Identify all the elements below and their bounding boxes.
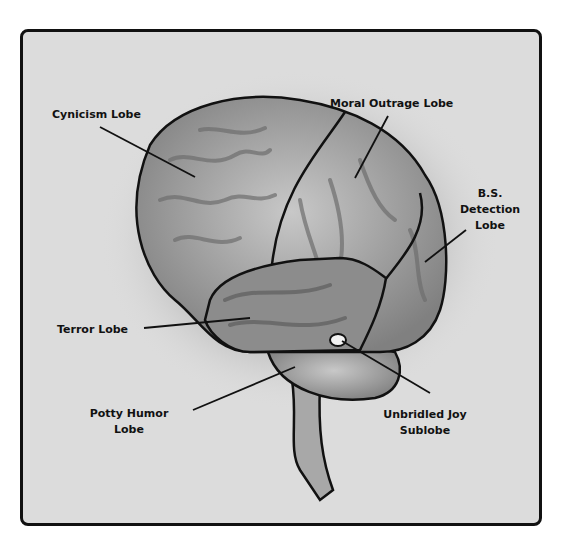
label-moral-outrage-lobe: Moral Outrage Lobe	[330, 97, 453, 110]
label-potty-humor-line1: Potty Humor	[90, 407, 169, 420]
label-terror-lobe: Terror Lobe	[57, 323, 128, 336]
label-bs-detection-line2: Detection	[460, 203, 520, 216]
brain-diagram: Cynicism Lobe Moral Outrage Lobe B.S. De…	[0, 0, 563, 549]
label-cynicism-lobe: Cynicism Lobe	[52, 108, 141, 121]
label-unbridled-joy-line1: Unbridled Joy	[383, 408, 466, 421]
label-bs-detection-line3: Lobe	[475, 219, 505, 232]
label-unbridled-joy-line2: Sublobe	[400, 424, 450, 437]
label-potty-humor-line2: Lobe	[114, 423, 144, 436]
label-bs-detection-line1: B.S.	[478, 187, 503, 200]
unbridled-joy-sublobe-region	[330, 334, 346, 346]
